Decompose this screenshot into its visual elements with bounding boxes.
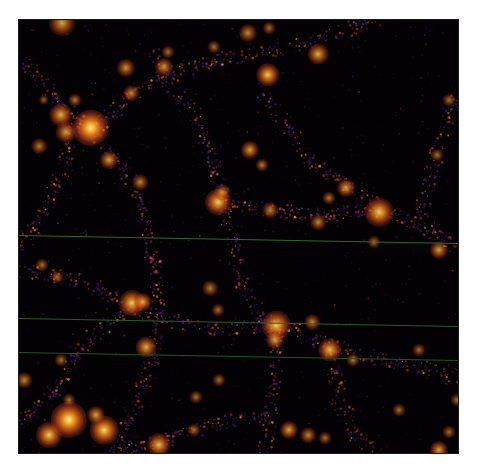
simulation-image-frame (19, 20, 458, 453)
